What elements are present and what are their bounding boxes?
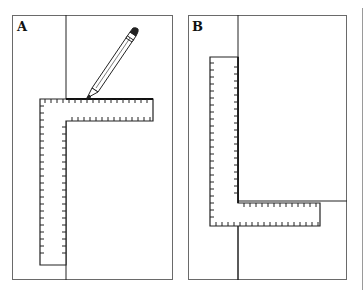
pencil-icon <box>87 28 138 98</box>
carpenters-square-a <box>40 99 153 265</box>
panel-b-drawing <box>210 15 347 280</box>
panel-a-drawing <box>40 15 153 280</box>
